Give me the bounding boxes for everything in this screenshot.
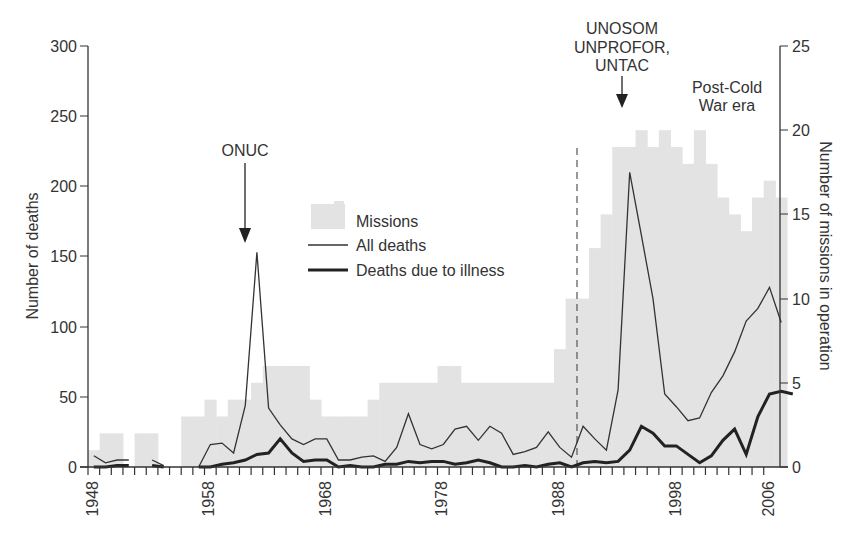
right-tick-5: 5 <box>792 375 801 392</box>
x-tick-1958: 1958 <box>200 481 217 517</box>
right-tick-25: 25 <box>792 38 810 55</box>
left-tick-100: 100 <box>50 319 77 336</box>
left-axis-title: Number of deaths <box>24 192 41 319</box>
missions-bars <box>88 130 788 467</box>
post-cold-war-annotation: Post-Cold War era <box>692 79 762 114</box>
chart: 0 50 100 150 200 250 300 0 5 10 15 20 25… <box>0 0 858 553</box>
onuc-arrow-icon <box>239 228 251 243</box>
x-axis-ticks <box>88 467 764 475</box>
legend: Missions All deaths Deaths due to illnes… <box>308 201 505 279</box>
unosom-annotation: UNOSOM UNPROFOR, UNTAC <box>574 20 670 108</box>
left-tick-250: 250 <box>50 108 77 125</box>
right-tick-20: 20 <box>792 122 810 139</box>
x-tick-2006: 2006 <box>760 481 777 517</box>
unosom-label: UNOSOM <box>586 20 658 37</box>
x-tick-1998: 1998 <box>667 481 684 517</box>
left-tick-labels: 0 50 100 150 200 250 300 <box>50 38 88 476</box>
left-tick-50: 50 <box>59 389 77 406</box>
post-cold-label-1: Post-Cold <box>692 79 762 96</box>
onuc-label: ONUC <box>221 142 268 159</box>
right-tick-0: 0 <box>792 459 801 476</box>
x-tick-1988: 1988 <box>550 481 567 517</box>
unosom-arrow-icon <box>616 94 628 108</box>
x-tick-labels: 1948 1958 1968 1978 1988 1998 2006 <box>84 481 777 517</box>
untac-label: UNTAC <box>595 57 649 74</box>
legend-illness-label: Deaths due to illness <box>356 262 505 279</box>
left-tick-0: 0 <box>68 459 77 476</box>
left-tick-300: 300 <box>50 38 77 55</box>
onuc-annotation: ONUC <box>221 142 268 243</box>
right-tick-15: 15 <box>792 206 810 223</box>
x-tick-1978: 1978 <box>433 481 450 517</box>
x-tick-1968: 1968 <box>317 481 334 517</box>
legend-missions-label: Missions <box>356 213 418 230</box>
legend-all-deaths-label: All deaths <box>356 237 426 254</box>
left-tick-150: 150 <box>50 248 77 265</box>
unprofor-label: UNPROFOR, <box>574 39 670 56</box>
right-axis-title: Number of missions in operation <box>817 141 834 370</box>
left-tick-200: 200 <box>50 178 77 195</box>
right-tick-10: 10 <box>792 291 810 308</box>
post-cold-label-2: War era <box>699 97 755 114</box>
legend-missions-swatch <box>311 204 345 229</box>
x-tick-1948: 1948 <box>84 481 101 517</box>
